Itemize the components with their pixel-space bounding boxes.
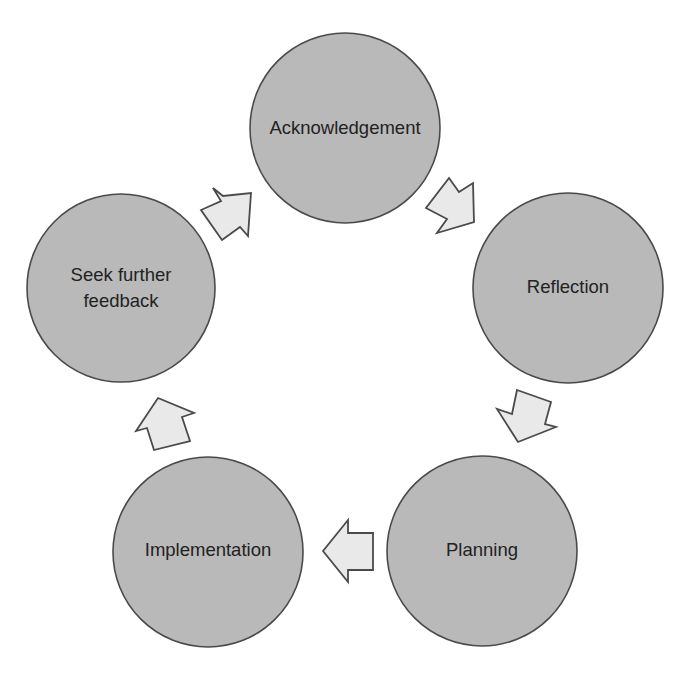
arrow-up-left-icon <box>136 398 194 450</box>
node-label-line-1: Seek further <box>71 264 172 285</box>
node-circle <box>27 194 215 382</box>
node-acknowledgement: Acknowledgement <box>250 33 440 223</box>
node-implementation: Implementation <box>113 457 303 647</box>
node-label: Planning <box>446 539 518 560</box>
arrow-up-right-icon <box>201 188 251 240</box>
arrow-left-icon <box>323 520 373 582</box>
node-label: Acknowledgement <box>269 117 420 138</box>
arrow-down-right-icon <box>426 178 474 233</box>
node-label: Implementation <box>145 539 271 560</box>
feedback-cycle-diagram: Acknowledgement Reflection Planning Impl… <box>0 0 685 674</box>
arrow-down-left-icon <box>497 390 556 442</box>
node-label: Reflection <box>527 276 609 297</box>
node-label-line-2: feedback <box>83 290 159 311</box>
node-planning: Planning <box>387 456 577 646</box>
node-seek-further-feedback: Seek further feedback <box>27 194 215 382</box>
node-reflection: Reflection <box>473 193 663 383</box>
